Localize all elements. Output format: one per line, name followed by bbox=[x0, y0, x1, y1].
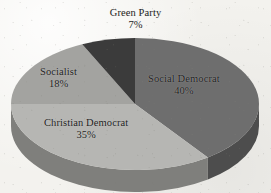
slice-label-socialist: Socialist 18% bbox=[40, 66, 77, 90]
slice-label-christian-democrat-percent: 35% bbox=[44, 129, 128, 141]
slice-label-socialist-name: Socialist bbox=[40, 66, 77, 78]
slice-label-social-democrat-name: Social Democrat bbox=[148, 73, 220, 85]
slice-label-green-party-percent: 7% bbox=[0, 19, 271, 31]
slice-label-social-democrat-percent: 40% bbox=[148, 85, 220, 97]
slice-label-social-democrat: Social Democrat 40% bbox=[148, 73, 220, 97]
slice-label-socialist-percent: 18% bbox=[40, 78, 77, 90]
slice-label-christian-democrat-name: Christian Democrat bbox=[44, 117, 128, 129]
pie-chart: Green Party 7% Social Democrat 40% Socia… bbox=[0, 0, 271, 193]
slice-label-christian-democrat: Christian Democrat 35% bbox=[44, 117, 128, 141]
slice-label-green-party: Green Party 7% bbox=[0, 7, 271, 31]
slice-label-green-party-name: Green Party bbox=[0, 7, 271, 19]
